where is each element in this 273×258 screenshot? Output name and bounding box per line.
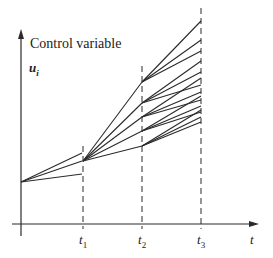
- t3-sub: 3: [201, 240, 206, 250]
- y-axis-title: Control variable: [30, 36, 121, 52]
- y-symbol-subscript: i: [36, 68, 39, 78]
- t1-sub: 1: [83, 240, 88, 250]
- y-axis-arrow-icon: [18, 29, 24, 39]
- x-axis-arrow-icon: [249, 221, 259, 227]
- tick-label-t2: t2: [138, 232, 146, 250]
- x-axis-label: t: [250, 232, 254, 248]
- tick-label-t1: t1: [79, 232, 87, 250]
- tick-label-t3: t3: [197, 232, 205, 250]
- t2-sub: 2: [142, 240, 147, 250]
- y-axis-symbol: ui: [29, 60, 39, 78]
